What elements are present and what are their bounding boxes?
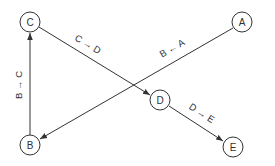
edge-label-c-to-d: C → D — [73, 32, 103, 56]
graph-diagram: B → C C → D B ← A D → E C A D B E — [0, 0, 275, 166]
node-label-a: A — [239, 17, 246, 28]
node-b: B — [20, 135, 40, 155]
node-label-b: B — [27, 140, 34, 151]
edge-b-to-c: B → C — [13, 33, 31, 135]
node-c: C — [20, 12, 40, 32]
node-d: D — [150, 90, 170, 110]
edge-label-a-to-b: B ← A — [158, 36, 187, 59]
node-label-c: C — [26, 17, 33, 28]
node-label-d: D — [156, 95, 163, 106]
edge-label-d-to-e: D → E — [187, 101, 216, 125]
edge-label-b-to-c: B → C — [13, 71, 24, 99]
node-a: A — [232, 12, 252, 32]
node-label-e: E — [230, 142, 237, 153]
edge-a-to-b: B ← A — [40, 28, 233, 139]
edge-d-to-e: D → E — [169, 101, 223, 141]
node-e: E — [223, 137, 243, 157]
